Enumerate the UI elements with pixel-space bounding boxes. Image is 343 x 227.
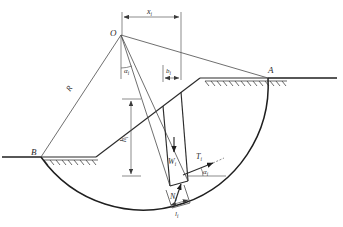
label-slice-width: bi	[166, 67, 172, 76]
hatching-slope-crest	[205, 81, 270, 86]
hatching-right-ground	[270, 81, 287, 86]
label-toe-point: B	[31, 147, 37, 157]
label-crest-point: A	[267, 65, 274, 75]
vertical-reference-from-center	[121, 12, 122, 79]
label-angle-at-base: αi	[203, 168, 209, 177]
hatching-left-ground	[44, 160, 98, 165]
label-angle-at-center: αi	[124, 67, 130, 76]
label-weight: Wi	[168, 157, 177, 167]
label-radius: R	[64, 84, 75, 94]
slope-face-line	[41, 78, 200, 157]
radius-line-to-B	[41, 35, 121, 157]
radius-line-to-A	[121, 35, 268, 78]
label-slice-height: hi	[119, 136, 129, 142]
radius-line-slice-left	[121, 35, 170, 186]
slip-surface-arc	[41, 78, 268, 210]
label-normal-force: Ni	[169, 192, 177, 202]
figure-container: O B A R xi bi hi Wi Ti Ni li	[0, 0, 343, 227]
label-moment-arm: xi	[146, 7, 153, 17]
label-tangential-force: Ti	[196, 152, 202, 162]
label-center-point: O	[110, 28, 117, 38]
label-base-length: li	[175, 210, 179, 219]
slope-stability-diagram: O B A R xi bi hi Wi Ti Ni li	[0, 0, 343, 227]
